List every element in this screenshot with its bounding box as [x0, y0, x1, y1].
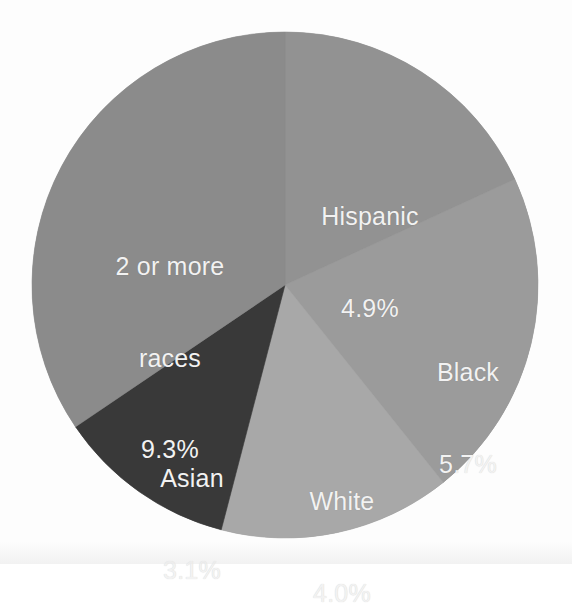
- pie-slice-group: [32, 32, 538, 538]
- pie-slice-value-white: 4.0%: [283, 578, 401, 607]
